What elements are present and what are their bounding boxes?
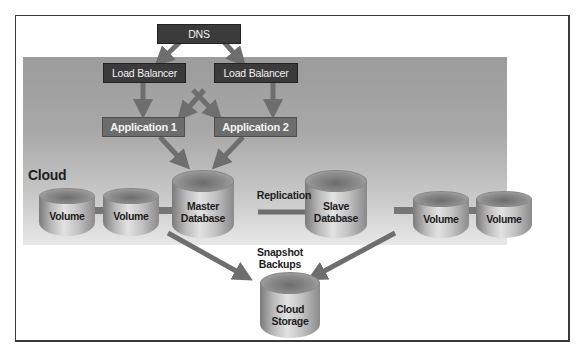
arrow-app1-master [160, 137, 184, 163]
cloud-storage-node: CloudStorage [260, 272, 320, 338]
application-1-node: Application 1 [102, 117, 185, 137]
replication-label: Replication [244, 189, 324, 201]
load-balancer-2-node: Load Balancer [214, 63, 298, 83]
arrow-snapshot-left [168, 233, 245, 276]
dns-node: DNS [157, 24, 241, 44]
arrow-snapshot-right [315, 233, 395, 276]
master-database-node: MasterDatabase [172, 170, 234, 238]
arrow-dns-lb2 [224, 42, 240, 60]
application-2-node: Application 2 [214, 117, 297, 137]
load-balancer-1-node: Load Balancer [103, 63, 186, 83]
volume-2-node: Volume [103, 188, 159, 236]
arrow-app2-master [218, 137, 243, 163]
volume-3-node: Volume [413, 191, 469, 238]
snapshot-backups-label: SnapshotBackups [250, 246, 310, 270]
volume-4-node: Volume [476, 191, 532, 238]
volume-1-node: Volume [39, 188, 95, 236]
arrow-dns-lb1 [161, 42, 180, 60]
slave-database-node: SlaveDatabase [305, 170, 367, 238]
